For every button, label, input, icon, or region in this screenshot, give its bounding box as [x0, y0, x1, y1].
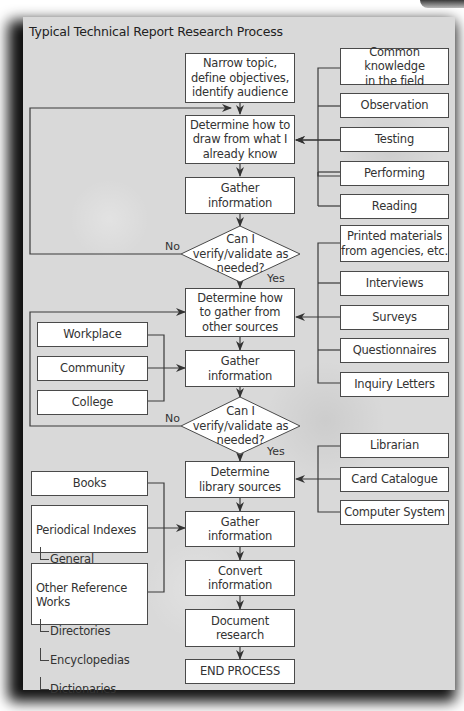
known-source-reading: Reading	[340, 194, 449, 219]
determine-library-box: Determine library sources	[185, 461, 295, 498]
other-source-interviews: Interviews	[340, 271, 449, 296]
reference-work-item: Encyclopedias	[36, 653, 143, 668]
determine-known-box: Determine how to draw from what I alread…	[185, 115, 295, 164]
known-source-common-knowledge: Common knowledge in the field	[340, 48, 449, 85]
no-label-1: No	[165, 240, 180, 253]
other-source-printed-materials: Printed materials from agencies, etc.	[340, 225, 449, 262]
determine-other-box: Determine how to gather from other sourc…	[185, 288, 295, 337]
known-source-testing: Testing	[340, 127, 449, 152]
gather-info-box-3: Gather information	[185, 511, 295, 547]
reference-work-item: Dictionaries	[36, 682, 143, 697]
community-source-college: College	[37, 390, 148, 415]
yes-label-1: Yes	[267, 272, 285, 285]
other-source-inquiry-letters: Inquiry Letters	[340, 372, 449, 397]
narrow-topic-box: Narrow topic, define objectives, identif…	[185, 53, 295, 103]
reference-work-item: Directories	[36, 624, 143, 639]
known-source-performing: Performing	[340, 161, 449, 186]
library-helper-librarian: Librarian	[340, 433, 449, 458]
community-source-workplace: Workplace	[37, 322, 148, 347]
decision-label-1: Can I verify/validate as needed?	[183, 232, 298, 276]
reference-works-heading: Other Reference Works	[36, 581, 143, 610]
document-research-box: Document research	[185, 609, 295, 647]
convert-info-box: Convert information	[185, 560, 295, 596]
other-source-questionnaires: Questionnaires	[340, 338, 449, 363]
library-material-periodical-indexes: Periodical Indexes General Specialized	[31, 505, 148, 553]
known-source-observation: Observation	[340, 93, 449, 118]
other-source-surveys: Surveys	[340, 305, 449, 330]
library-helper-card-catalogue: Card Catalogue	[340, 467, 449, 492]
library-material-reference-works: Other Reference Works Directories Encycl…	[31, 563, 148, 625]
gather-info-box-2: Gather information	[185, 350, 295, 387]
no-label-2: No	[165, 412, 180, 425]
end-process-box: END PROCESS	[185, 659, 295, 684]
library-helper-computer-system: Computer System	[340, 500, 449, 525]
gather-info-box-1: Gather information	[185, 177, 295, 214]
yes-label-2: Yes	[267, 445, 285, 458]
community-source-community: Community	[37, 356, 148, 381]
library-material-books: Books	[31, 471, 148, 496]
decision-label-2: Can I verify/validate as needed?	[183, 404, 298, 448]
periodical-indexes-heading: Periodical Indexes	[36, 523, 143, 538]
